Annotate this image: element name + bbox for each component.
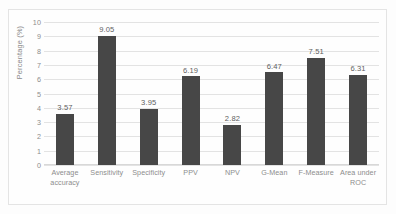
x-axis-category-labels: AverageaccuracySensitivitySpecificityPPV… xyxy=(44,168,379,188)
bar-slot: 6.47 xyxy=(253,22,295,165)
x-axis-category-label-line: NPV xyxy=(213,168,253,178)
y-axis-tick-label: 9 xyxy=(1,32,41,41)
bar-value-label: 6.19 xyxy=(170,66,212,75)
x-axis-category-label-line: Sensitivity xyxy=(87,168,127,178)
y-axis-tick-label: 6 xyxy=(1,75,41,84)
bar-value-label: 6.47 xyxy=(253,62,295,71)
bar-value-label: 6.31 xyxy=(337,64,379,73)
bar-chart-screenshot: Percentage (%) 109876543210 3.579.053.95… xyxy=(0,0,396,214)
y-axis-tick-label: 8 xyxy=(1,46,41,55)
x-axis-category-label-line: Area under xyxy=(338,168,378,178)
bar-slot: 6.31 xyxy=(337,22,379,165)
x-axis-category-label: PPV xyxy=(170,168,212,188)
bar-series: 3.579.053.956.192.826.477.516.31 xyxy=(44,22,379,165)
bar[interactable] xyxy=(349,75,367,165)
x-axis-category-label: Sensitivity xyxy=(86,168,128,188)
bar-slot: 7.51 xyxy=(295,22,337,165)
x-axis-category-label-line: Average xyxy=(45,168,85,178)
bar[interactable] xyxy=(98,36,116,165)
bar[interactable] xyxy=(182,76,200,165)
y-axis-tick-label: 7 xyxy=(1,60,41,69)
y-axis-tick-label: 1 xyxy=(1,146,41,155)
bar[interactable] xyxy=(265,72,283,165)
bar-value-label: 2.82 xyxy=(212,114,254,123)
x-axis-category-label-line: F-Measure xyxy=(296,168,336,178)
x-axis-category-label-line: ROC xyxy=(338,178,378,188)
bar[interactable] xyxy=(307,58,325,165)
x-axis-category-label: F-Measure xyxy=(295,168,337,188)
x-axis-category-label-line: PPV xyxy=(171,168,211,178)
bar-slot: 2.82 xyxy=(212,22,254,165)
y-axis-tick-label: 4 xyxy=(1,103,41,112)
y-axis-tick-label: 10 xyxy=(1,18,41,27)
y-axis-tick-label: 5 xyxy=(1,89,41,98)
bar[interactable] xyxy=(56,114,74,165)
x-axis-category-label: Averageaccuracy xyxy=(44,168,86,188)
gridline xyxy=(44,165,379,166)
bar[interactable] xyxy=(223,125,241,165)
bar-value-label: 3.95 xyxy=(128,98,170,107)
y-axis-tick-label: 3 xyxy=(1,118,41,127)
bar[interactable] xyxy=(140,109,158,165)
x-axis-category-label-line: accuracy xyxy=(45,178,85,188)
x-axis-category-label: Area underROC xyxy=(337,168,379,188)
bar-slot: 9.05 xyxy=(86,22,128,165)
bar-slot: 6.19 xyxy=(170,22,212,165)
x-axis-category-label: Specificity xyxy=(128,168,170,188)
y-axis-tick-labels: 109876543210 xyxy=(0,22,41,165)
bar-value-label: 9.05 xyxy=(86,25,128,34)
x-axis-category-label: NPV xyxy=(212,168,254,188)
bar-slot: 3.57 xyxy=(44,22,86,165)
y-axis-tick-label: 2 xyxy=(1,132,41,141)
y-axis-tick-label: 0 xyxy=(1,161,41,170)
x-axis-category-label-line: Specificity xyxy=(129,168,169,178)
bar-value-label: 3.57 xyxy=(44,103,86,112)
x-axis-category-label: G-Mean xyxy=(253,168,295,188)
x-axis-category-label-line: G-Mean xyxy=(254,168,294,178)
bar-value-label: 7.51 xyxy=(295,47,337,56)
bar-slot: 3.95 xyxy=(128,22,170,165)
